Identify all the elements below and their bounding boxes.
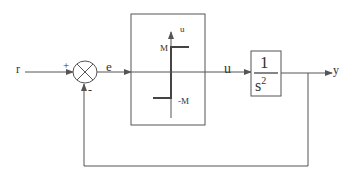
relay-block xyxy=(131,14,205,125)
reference-label: r xyxy=(16,63,20,75)
minus-sign: - xyxy=(88,84,92,96)
summing-junction xyxy=(73,61,97,83)
plus-sign: + xyxy=(63,60,69,71)
relay-upper-level-label: M xyxy=(160,44,168,53)
block-diagram-canvas xyxy=(0,0,349,179)
output-label: y xyxy=(333,64,339,76)
error-label: e xyxy=(106,60,112,73)
control-label: u xyxy=(224,62,231,76)
relay-lower-level-label: -M xyxy=(178,97,189,106)
plant-denominator-exponent: 2 xyxy=(261,75,266,86)
relay-axis-label: u xyxy=(180,25,185,34)
plant-denominator: s2 xyxy=(255,76,266,94)
plant-numerator: 1 xyxy=(260,54,269,71)
